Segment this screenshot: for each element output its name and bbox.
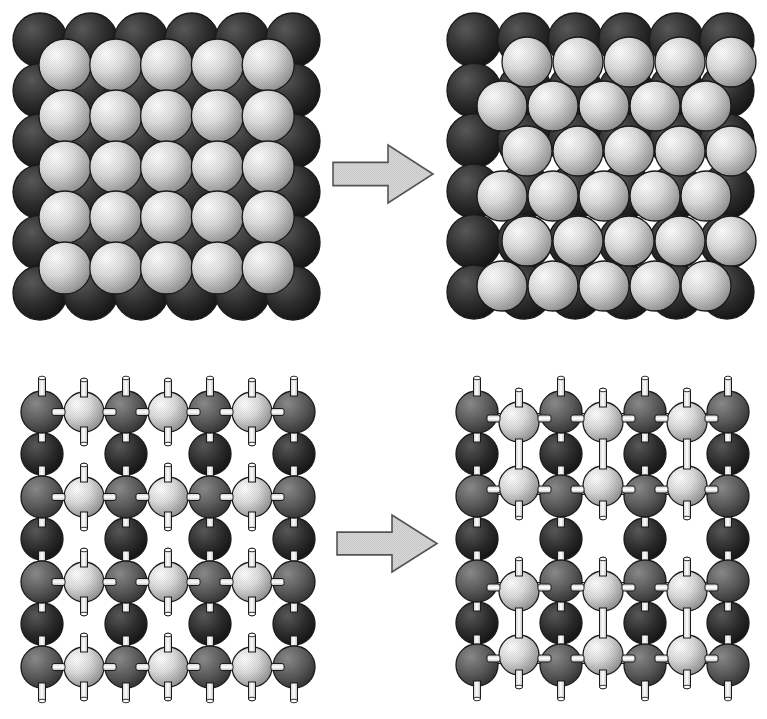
adsorbate-atom: [242, 141, 294, 193]
adsorbate-atom: [630, 261, 680, 311]
bond-vertical: [165, 682, 172, 701]
adsorbate-atom: [242, 39, 294, 91]
adsorbate-atom: [655, 216, 705, 266]
bond-vertical: [123, 636, 130, 646]
bond-vertical: [291, 683, 298, 703]
adsorbate-atom: [553, 216, 603, 266]
adatom: [499, 635, 539, 675]
bond-horizontal: [220, 494, 233, 501]
adsorbate-atom: [528, 171, 578, 221]
adsorbate-atom: [681, 261, 731, 311]
bond-horizontal: [187, 579, 200, 586]
bond-horizontal: [52, 494, 65, 501]
adatom: [583, 571, 623, 611]
adsorbate-atom: [553, 126, 603, 176]
bond-vertical: [558, 517, 565, 527]
substrate-atom: [447, 13, 501, 67]
adatom: [583, 402, 623, 442]
surface-atom: [707, 391, 749, 433]
bond-vertical: [558, 681, 565, 701]
surface-atom: [456, 560, 498, 602]
bond-vertical: [165, 463, 172, 482]
bond-vertical: [165, 548, 172, 567]
adsorbate-atom: [477, 171, 527, 221]
bond-horizontal: [705, 415, 718, 422]
adsorbate-atom: [141, 191, 193, 243]
bond-horizontal: [538, 486, 551, 493]
bond-vertical: [81, 682, 88, 701]
bond-horizontal: [655, 415, 668, 422]
top-arrow-icon: [333, 145, 433, 203]
adsorbate-atom: [706, 126, 756, 176]
panel-bottom-right: [456, 376, 749, 701]
bond-horizontal: [136, 579, 149, 586]
bond-vertical: [474, 376, 481, 396]
bond-vertical: [207, 636, 214, 646]
bond-vertical: [291, 466, 298, 476]
adatom: [148, 477, 188, 517]
bond-vertical: [249, 463, 256, 482]
bond-vertical: [684, 670, 691, 689]
bond-vertical: [165, 378, 172, 397]
bond-horizontal: [571, 415, 584, 422]
adsorbate-atom: [90, 90, 142, 142]
adsorbate-atom: [141, 141, 193, 193]
bond-vertical: [249, 512, 256, 531]
adatom: [64, 647, 104, 687]
adatom: [667, 402, 707, 442]
arrows: [333, 145, 437, 572]
adsorbate-atom: [502, 216, 552, 266]
bond-vertical: [81, 512, 88, 531]
bond-vertical: [291, 636, 298, 646]
bond-vertical: [165, 512, 172, 531]
surface-atom: [624, 391, 666, 433]
bond-horizontal: [220, 409, 233, 416]
bond-horizontal: [136, 494, 149, 501]
adatom: [667, 466, 707, 506]
bond-vertical: [516, 501, 523, 520]
figure: unreconstructed square surface reconstru…: [0, 0, 767, 719]
bond-vertical: [81, 548, 88, 567]
bond-horizontal: [487, 655, 500, 662]
adatom: [583, 466, 623, 506]
bond-horizontal: [271, 409, 284, 416]
bond-horizontal: [103, 494, 116, 501]
bond-horizontal: [487, 584, 500, 591]
bond-vertical: [249, 548, 256, 567]
surface-atom: [456, 644, 498, 686]
bond-horizontal: [136, 409, 149, 416]
surface-atom: [456, 475, 498, 517]
adsorbate-atom: [681, 81, 731, 131]
bond-vertical: [558, 376, 565, 396]
bond-vertical: [291, 376, 298, 396]
surface-atom: [540, 644, 582, 686]
panel-bottom-left: [21, 376, 315, 703]
surface-atom: [540, 560, 582, 602]
bond-vertical: [600, 501, 607, 520]
bond-horizontal: [622, 415, 635, 422]
bond-horizontal: [103, 579, 116, 586]
bond-vertical: [39, 636, 46, 646]
adsorbate-atom: [655, 126, 705, 176]
adatom: [667, 635, 707, 675]
adsorbate-atom: [242, 242, 294, 294]
bond-vertical: [165, 597, 172, 616]
adsorbate-atom: [604, 216, 654, 266]
bond-vertical: [249, 378, 256, 397]
bond-vertical: [81, 378, 88, 397]
bond-horizontal: [622, 486, 635, 493]
bond-vertical: [642, 681, 649, 701]
bond-vertical: [684, 608, 691, 638]
bond-vertical: [600, 439, 607, 469]
adatom: [148, 562, 188, 602]
surface-atom: [707, 644, 749, 686]
adsorbate-atom: [191, 39, 243, 91]
bond-horizontal: [655, 486, 668, 493]
bond-vertical: [249, 427, 256, 446]
bond-vertical: [684, 501, 691, 520]
adatom: [64, 392, 104, 432]
bond-vertical: [516, 608, 523, 638]
adsorbate-atom: [141, 90, 193, 142]
adsorbate-atom: [477, 81, 527, 131]
bond-vertical: [39, 376, 46, 396]
